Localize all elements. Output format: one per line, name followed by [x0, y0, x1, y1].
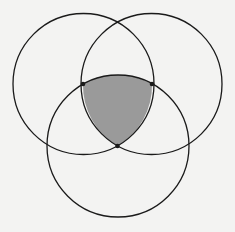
right-point-dot — [150, 82, 155, 87]
bottom-point-dot — [115, 144, 120, 149]
venn-diagram — [0, 0, 235, 232]
left-point-dot — [81, 82, 86, 87]
diagram-canvas — [0, 0, 235, 232]
shaded-intersection-region — [83, 75, 152, 146]
